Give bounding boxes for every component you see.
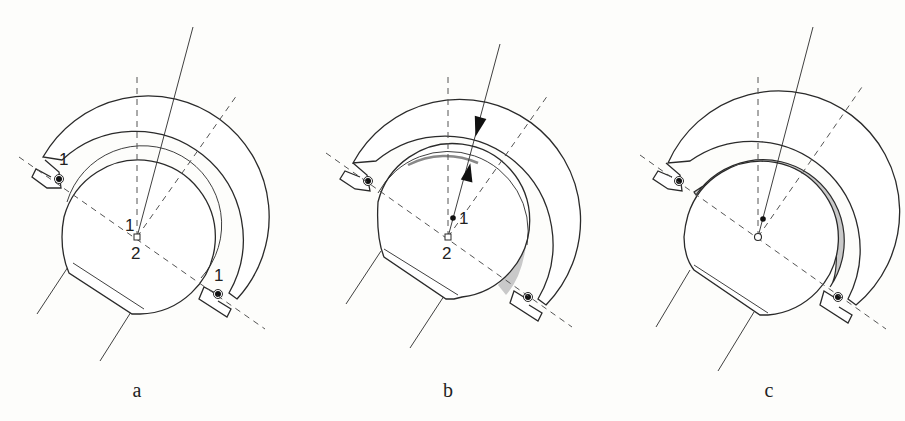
label-point-1: 1 (459, 209, 468, 228)
caption-b: b (443, 379, 453, 401)
shank-line-left (346, 251, 381, 304)
point-1-dot (760, 216, 766, 222)
label-point-1: 1 (125, 216, 134, 235)
label-lug-left: 1 (59, 150, 68, 169)
panel-c (640, 27, 900, 371)
panel-b: 1 2 (326, 44, 581, 348)
label-point-2: 2 (131, 244, 140, 263)
shank-line-right (718, 312, 754, 371)
label-lug-right: 1 (214, 266, 223, 285)
pin-left-dot (56, 176, 62, 182)
caption-a: a (133, 379, 142, 401)
center-point (445, 234, 451, 240)
center-point (755, 234, 762, 241)
panel-a: 1 2 1 1 (19, 27, 269, 361)
label-point-2: 2 (442, 244, 451, 263)
shank-line-right (410, 293, 446, 348)
shank-line-left (37, 267, 68, 314)
shank-line-right (100, 312, 131, 361)
center-point (134, 234, 140, 240)
diagram-figure: 1 2 1 1 1 2 (0, 0, 905, 421)
caption-c: c (765, 379, 774, 401)
shank-line-left (656, 270, 690, 327)
point-1-dot (450, 215, 456, 221)
